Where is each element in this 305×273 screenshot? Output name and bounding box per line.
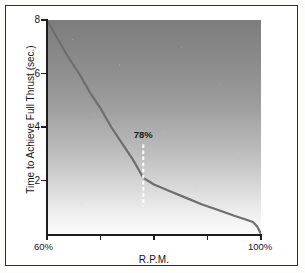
x-tick-70 <box>100 235 102 240</box>
plot-area <box>47 20 261 234</box>
y-tick-label-8: 8 <box>6 15 40 25</box>
y-tick-6 <box>41 73 46 75</box>
annotation-marker-layer <box>47 20 261 234</box>
chart-figure: 78% 2468 60%100% R.P.M. Time to Achieve … <box>0 0 305 273</box>
y-axis-line <box>46 19 48 235</box>
x-tick-60 <box>46 235 48 240</box>
y-axis-title: Time to Achieve Full Thrust (sec.) <box>25 25 36 215</box>
y-tick-8 <box>41 19 46 21</box>
figure-frame-border: 78% 2468 60%100% R.P.M. Time to Achieve … <box>5 5 298 266</box>
x-tick-100 <box>260 235 262 240</box>
x-tick-90 <box>207 235 209 240</box>
x-tick-80 <box>153 235 155 240</box>
x-tick-label-60-percent: 60% <box>34 242 53 252</box>
y-tick-4 <box>41 126 46 128</box>
x-tick-label-100-percent: 100% <box>248 242 272 252</box>
x-axis-title: R.P.M. <box>47 254 261 265</box>
annotation-label-78-percent: 78% <box>123 130 163 140</box>
y-tick-2 <box>41 180 46 182</box>
